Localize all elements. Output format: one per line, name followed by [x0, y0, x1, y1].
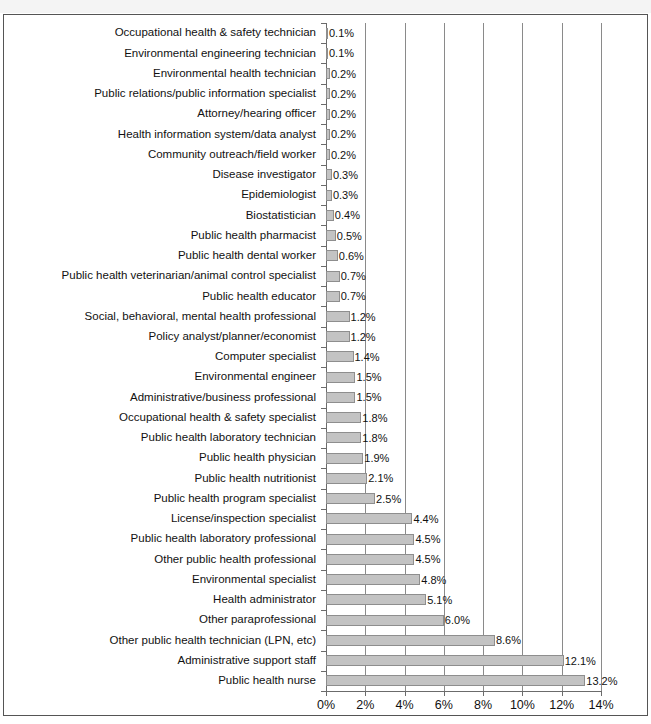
bar-value-label: 1.4% — [355, 351, 380, 362]
bar[interactable]: 1.9% — [326, 453, 363, 464]
bar[interactable]: 0.2% — [326, 129, 330, 140]
bar[interactable]: 0.2% — [326, 149, 330, 160]
category-label: Public health nutritionist — [195, 468, 316, 488]
bar[interactable]: 1.4% — [326, 351, 354, 362]
value-tick-6% — [444, 691, 445, 696]
bar-row: 0.3% — [326, 165, 601, 185]
bar-row: 1.2% — [326, 327, 601, 347]
category-label: Environmental engineer — [195, 367, 316, 387]
bar[interactable]: 0.1% — [326, 28, 328, 39]
bar[interactable]: 0.5% — [326, 230, 336, 241]
bar-value-label: 2.1% — [368, 473, 393, 484]
category-label: Public health pharmacist — [191, 225, 316, 245]
bar-value-label: 0.2% — [331, 68, 356, 79]
bar-value-label: 0.2% — [331, 88, 356, 99]
bar-row: 1.9% — [326, 448, 601, 468]
bar-row: 12.1% — [326, 651, 601, 671]
category-label: Administrative/business professional — [130, 387, 316, 407]
category-label: Health information system/data analyst — [118, 124, 316, 144]
bar-value-label: 8.6% — [496, 635, 521, 646]
bar-value-label: 4.8% — [421, 574, 446, 585]
bar-rows: 0.1%0.1%0.2%0.2%0.2%0.2%0.2%0.3%0.3%0.4%… — [326, 23, 601, 691]
category-label: Public health laboratory professional — [131, 529, 316, 549]
category-label: Attorney/hearing officer — [197, 104, 316, 124]
value-tick-label: 8% — [474, 699, 492, 712]
bar-row: 0.1% — [326, 23, 601, 43]
bar[interactable]: 0.2% — [326, 68, 330, 79]
category-label: Social, behavioral, mental health profes… — [85, 306, 316, 326]
bar-value-label: 1.5% — [356, 392, 381, 403]
bar[interactable]: 1.2% — [326, 311, 350, 322]
bar-row: 2.5% — [326, 489, 601, 509]
bar[interactable]: 1.8% — [326, 432, 361, 443]
bar[interactable]: 0.4% — [326, 210, 334, 221]
bar-value-label: 0.4% — [335, 210, 360, 221]
bar[interactable]: 0.2% — [326, 109, 330, 120]
bar-row: 13.2% — [326, 671, 601, 691]
bar[interactable]: 6.0% — [326, 615, 444, 626]
bar-value-label: 1.2% — [351, 331, 376, 342]
bar[interactable]: 2.5% — [326, 493, 375, 504]
bar-row: 2.1% — [326, 468, 601, 488]
category-label: Public health veterinarian/animal contro… — [62, 266, 316, 286]
bar[interactable]: 2.1% — [326, 473, 367, 484]
value-tick-label: 0% — [317, 699, 335, 712]
bar[interactable]: 1.5% — [326, 372, 355, 383]
value-tick-label: 4% — [396, 699, 414, 712]
gridline-14% — [601, 23, 602, 691]
bar-row: 1.5% — [326, 387, 601, 407]
bar-row: 0.2% — [326, 104, 601, 124]
bar-row: 0.2% — [326, 144, 601, 164]
chart-page: Occupational health & safety technicianE… — [0, 0, 651, 724]
bar[interactable]: 0.3% — [326, 169, 332, 180]
bar-value-label: 0.2% — [331, 129, 356, 140]
bar[interactable]: 8.6% — [326, 635, 495, 646]
value-tick-0% — [326, 691, 327, 696]
bar[interactable]: 1.2% — [326, 331, 350, 342]
category-label: Computer specialist — [215, 347, 316, 367]
bar-value-label: 5.1% — [427, 594, 452, 605]
bar[interactable]: 4.5% — [326, 534, 414, 545]
bar[interactable]: 0.7% — [326, 271, 340, 282]
category-label: Environmental specialist — [192, 570, 316, 590]
bar-value-label: 0.5% — [337, 230, 362, 241]
bar[interactable]: 12.1% — [326, 655, 564, 666]
bar[interactable]: 0.2% — [326, 88, 330, 99]
plot-area: 0.1%0.1%0.2%0.2%0.2%0.2%0.2%0.3%0.3%0.4%… — [326, 23, 601, 691]
bar[interactable]: 0.7% — [326, 291, 340, 302]
bar-row: 0.7% — [326, 286, 601, 306]
bar-value-label: 0.2% — [331, 149, 356, 160]
bar-value-label: 1.8% — [362, 432, 387, 443]
bar[interactable]: 5.1% — [326, 594, 426, 605]
value-tick-8% — [483, 691, 484, 696]
value-tick-14% — [601, 691, 602, 696]
bar-value-label: 0.6% — [339, 250, 364, 261]
bar-row: 1.5% — [326, 367, 601, 387]
bar-row: 4.8% — [326, 570, 601, 590]
bar-row: 4.4% — [326, 509, 601, 529]
bar[interactable]: 1.8% — [326, 412, 361, 423]
category-label: Public health physician — [199, 448, 316, 468]
value-tick-label: 10% — [510, 699, 535, 712]
page-header-strip — [0, 0, 651, 13]
bar[interactable]: 4.8% — [326, 574, 420, 585]
bar[interactable]: 1.5% — [326, 392, 355, 403]
bar[interactable]: 0.6% — [326, 250, 338, 261]
bar-value-label: 2.5% — [376, 493, 401, 504]
category-label: Other public health technician (LPN, etc… — [110, 630, 316, 650]
category-label: Community outreach/field worker — [148, 144, 316, 164]
bar-value-label: 0.7% — [341, 291, 366, 302]
bar[interactable]: 4.5% — [326, 554, 414, 565]
bar-row: 6.0% — [326, 610, 601, 630]
value-tick-12% — [562, 691, 563, 696]
bar[interactable]: 13.2% — [326, 675, 585, 686]
bar-row: 1.4% — [326, 347, 601, 367]
bar[interactable]: 4.4% — [326, 513, 412, 524]
bar[interactable]: 0.3% — [326, 190, 332, 201]
bar[interactable]: 0.1% — [326, 48, 328, 59]
bar-value-label: 13.2% — [586, 675, 617, 686]
category-label: Disease investigator — [212, 165, 316, 185]
bar-row: 0.6% — [326, 246, 601, 266]
category-label: Public health nurse — [218, 671, 316, 691]
bar-value-label: 12.1% — [565, 655, 596, 666]
